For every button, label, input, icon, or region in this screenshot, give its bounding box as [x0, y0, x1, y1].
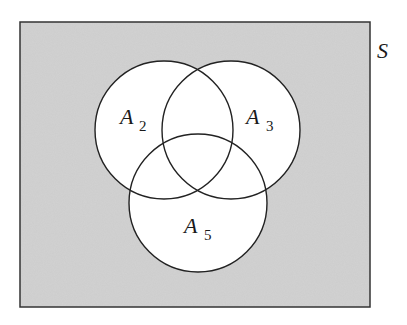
universe-label: S — [377, 38, 388, 63]
set-a5-subscript: 5 — [204, 227, 212, 243]
set-a2-name: A — [118, 104, 134, 129]
set-a2-subscript: 2 — [139, 118, 147, 134]
set-a5-name: A — [182, 213, 198, 238]
set-a3-subscript: 3 — [266, 118, 274, 134]
set-a3-name: A — [244, 104, 260, 129]
venn-diagram: S A 2 A 3 A 5 — [0, 0, 407, 325]
